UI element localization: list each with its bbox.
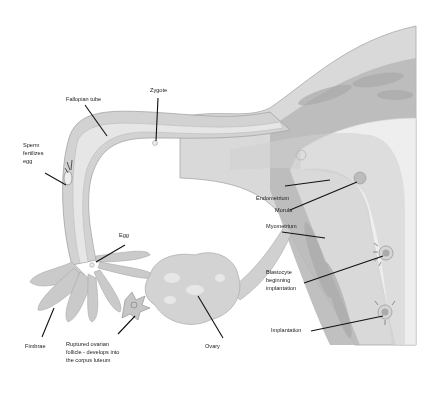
label-zygote: Zygote <box>150 86 167 94</box>
ruptured-follicle <box>122 292 150 320</box>
label-sperm-fertilizes-egg: Sperm fertilizes egg <box>23 141 44 165</box>
zygote-cell <box>153 141 158 146</box>
label-blastocyte: Blastocyte beginning implantation <box>266 268 296 292</box>
label-egg: Egg <box>119 231 129 239</box>
egg-cell <box>90 263 94 267</box>
label-ovary: Ovary <box>205 342 220 350</box>
label-fimbrae: Fimbrae <box>25 342 46 350</box>
label-implantation: Implantation <box>271 326 301 334</box>
label-fallopian-tube: Fallopian tube <box>66 95 101 103</box>
label-ruptured-follicle: Ruptured ovarian follicle - develops int… <box>66 340 119 364</box>
label-endometrium: Endometrium <box>256 194 289 202</box>
label-myometrium: Myometrium <box>266 222 297 230</box>
label-morula: Morula <box>275 206 292 214</box>
